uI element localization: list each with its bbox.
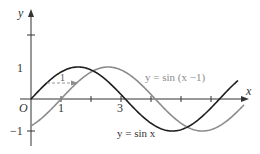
y-tick-label-neg-1: −1 <box>10 124 23 138</box>
chart-canvas: 1 y x O 1 3 1 −1 y = sin (x −1) y = sin … <box>0 0 260 154</box>
x-tick-label-1: 1 <box>58 101 64 115</box>
y-tick-label-1: 1 <box>17 61 23 75</box>
x-axis-label: x <box>245 84 252 98</box>
x-tick-label-3: 3 <box>117 101 123 115</box>
label-sin-x: y = sin x <box>117 127 156 139</box>
y-axis-label: y <box>17 6 24 20</box>
origin-label: O <box>19 101 28 115</box>
y-axis-arrow-icon <box>28 9 34 17</box>
label-sin-x-minus-1: y = sin (x −1) <box>145 71 205 84</box>
shift-amount-label: 1 <box>60 72 65 83</box>
